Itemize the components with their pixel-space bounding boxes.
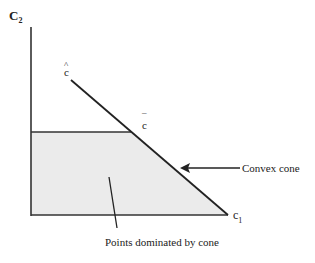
convex-cone-label: Convex cone (242, 162, 300, 174)
x-axis-label: c1 (233, 208, 242, 225)
c-hat-label: c (64, 66, 69, 78)
y-axis-label: C2 (9, 8, 22, 25)
c-bar-label: c (142, 119, 147, 131)
convex-cone-diagram: C2 c1 ^ c ¯ c Convex cone Points dominat… (0, 0, 315, 263)
dominated-region (31, 132, 228, 215)
dominated-label: Points dominated by cone (105, 236, 219, 248)
